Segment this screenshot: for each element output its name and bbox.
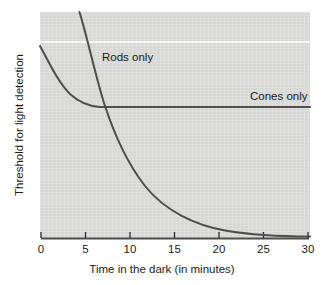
rods-only-curve [80,12,311,237]
x-tick-label-15: 15 [168,244,181,256]
x-tick-label-20: 20 [213,244,226,256]
x-axis-title: Time in the dark (in minutes) [89,264,234,276]
x-tick-label-25: 25 [257,244,270,256]
x-tick-label-10: 10 [124,244,137,256]
y-axis-title: Threshold for light detection [14,54,26,196]
x-tick-label-30: 30 [302,244,315,256]
x-tick-label-5: 5 [82,244,88,256]
x-tick-label-0: 0 [38,244,44,256]
cones-only-label: Cones only [250,91,308,103]
chart-vector-layer [0,0,324,285]
dark-adaptation-chart: 0 5 10 15 20 25 30 Time in the dark (in … [0,0,324,285]
rods-only-label: Rods only [102,52,153,64]
